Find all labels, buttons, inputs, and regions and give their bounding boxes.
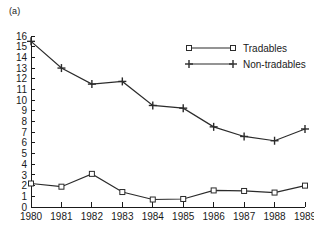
- x-axis-tick-label: 1986: [203, 211, 226, 222]
- x-axis-tick-label: 1987: [233, 211, 256, 222]
- y-axis-tick-label: 15: [16, 41, 28, 52]
- x-axis-tick-label: 1981: [50, 211, 73, 222]
- data-point-marker-square: [187, 46, 192, 51]
- data-point-marker-square: [303, 183, 308, 188]
- data-point-marker-square: [211, 188, 216, 193]
- data-point-marker-plus: [240, 132, 248, 140]
- data-point-marker-plus: [88, 80, 96, 88]
- data-point-marker-square: [272, 190, 277, 195]
- data-point-marker-square: [150, 197, 155, 202]
- x-axis-tick-label: 1980: [20, 211, 43, 222]
- data-point-marker-plus: [271, 137, 279, 145]
- data-point-marker-square: [120, 190, 125, 195]
- data-point-marker-square: [242, 188, 247, 193]
- data-point-marker-square: [231, 46, 236, 51]
- x-axis-tick-label: 1989: [294, 211, 314, 222]
- y-axis-tick-label: 5: [21, 148, 27, 159]
- series-tradables: [29, 171, 308, 202]
- y-axis-tick-label: 12: [16, 73, 28, 84]
- x-axis-tick-label: 1982: [81, 211, 104, 222]
- y-axis-tick-label: 16: [16, 31, 28, 42]
- y-axis-tick-label: 2: [21, 180, 27, 191]
- x-axis-tick-label: 1988: [263, 211, 286, 222]
- data-point-marker-plus: [185, 60, 193, 68]
- data-point-marker-square: [59, 184, 64, 189]
- panel-label: (a): [9, 6, 20, 16]
- data-point-marker-square: [29, 181, 34, 186]
- legend-label: Tradables: [243, 43, 287, 54]
- y-axis-tick-label: 6: [21, 137, 27, 148]
- figure-panel: (a) 012345678910111213141516 19801981198…: [0, 0, 314, 241]
- data-point-marker-plus: [179, 104, 187, 112]
- y-axis-tick-label: 3: [21, 170, 27, 181]
- x-axis: 1980198119821983198419851986198719881989: [20, 202, 314, 222]
- y-axis-tick-label: 9: [21, 105, 27, 116]
- x-axis-tick-label: 1983: [111, 211, 134, 222]
- series-line: [31, 174, 305, 200]
- y-axis-tick-label: 1: [21, 191, 27, 202]
- data-point-marker-square: [181, 196, 186, 201]
- y-axis-tick-label: 8: [21, 116, 27, 127]
- legend-item-tradables[interactable]: Tradables: [187, 43, 288, 54]
- data-point-marker-square: [89, 171, 94, 176]
- y-axis-tick-label: 7: [21, 127, 27, 138]
- legend-label: Non-tradables: [243, 59, 306, 70]
- x-axis-tick-label: 1984: [142, 211, 165, 222]
- y-axis-tick-label: 10: [16, 95, 28, 106]
- x-axis-tick-label: 1985: [172, 211, 195, 222]
- data-point-marker-plus: [301, 125, 309, 133]
- y-axis-tick-label: 4: [21, 159, 27, 170]
- y-axis-tick-label: 13: [16, 63, 28, 74]
- y-axis-tick-label: 11: [17, 84, 28, 95]
- data-point-marker-plus: [210, 123, 218, 131]
- line-chart: 012345678910111213141516 198019811982198…: [0, 0, 314, 241]
- chart-legend: TradablesNon-tradables: [185, 43, 306, 70]
- series-line: [31, 41, 305, 140]
- legend-item-non-tradables[interactable]: Non-tradables: [185, 59, 306, 70]
- data-point-marker-plus: [229, 60, 237, 68]
- y-axis-tick-label: 14: [16, 52, 28, 63]
